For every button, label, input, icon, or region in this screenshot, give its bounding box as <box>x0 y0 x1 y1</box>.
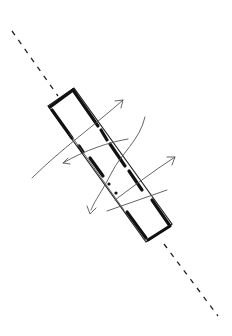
architectural-sketch <box>0 0 232 336</box>
block-walls <box>50 90 170 240</box>
dot <box>114 191 117 194</box>
flow-curve <box>91 117 145 210</box>
flow-arrow-left <box>63 139 128 164</box>
axis-line-lower <box>164 244 218 316</box>
flow-arrow-upper-right <box>32 100 123 178</box>
flow-arrow-down <box>87 206 96 214</box>
sketch-canvas <box>0 0 232 336</box>
axis-line-upper <box>12 31 58 96</box>
dot <box>107 182 110 185</box>
